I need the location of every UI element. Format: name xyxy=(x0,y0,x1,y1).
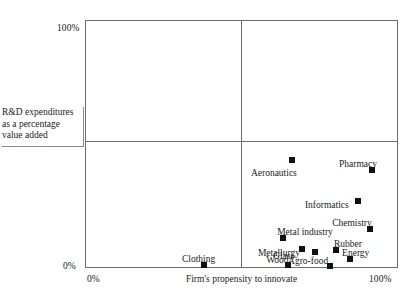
quadrant-divider-horizontal xyxy=(85,141,398,142)
data-point-label: Metal industry xyxy=(277,227,333,237)
x-axis-title: Firm's propensity to innovate xyxy=(85,274,398,284)
data-point-label: Wood xyxy=(266,255,288,265)
quadrant-divider-vertical xyxy=(241,20,242,268)
data-point-label: Pharmacy xyxy=(339,159,377,169)
y-axis-tick-top: 100% xyxy=(57,23,80,33)
data-point-label: Energy xyxy=(342,248,369,258)
data-point-label: Agro-food xyxy=(288,256,328,266)
data-point-label: Informatics xyxy=(305,200,349,210)
y-axis-tick-bottom: 0% xyxy=(63,261,76,271)
data-point-marker xyxy=(312,249,318,255)
data-point-label: Aeronautics xyxy=(251,168,297,178)
y-axis-caption: R&D expenditures as a percentage value a… xyxy=(2,107,84,147)
data-point-label: Chemistry xyxy=(332,218,372,228)
data-point-label: Clothing xyxy=(182,254,215,264)
data-point-marker xyxy=(289,157,295,163)
data-point-marker xyxy=(355,198,361,204)
scatter-chart: R&D expenditures as a percentage value a… xyxy=(0,0,419,302)
